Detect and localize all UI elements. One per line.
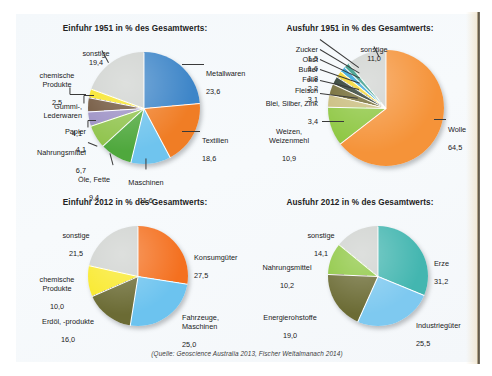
slice-separator xyxy=(328,274,378,277)
book-spine-edge xyxy=(477,12,480,364)
chart-title-einfuhr-1951: Einfuhr 1951 in % des Gesamtwerts: xyxy=(24,24,246,33)
slice-value: 3,4 xyxy=(308,117,318,126)
slice-value: 19,4 xyxy=(89,58,103,67)
slice-label-sonstige: sonstige 19,4 xyxy=(60,40,132,67)
slice-separator xyxy=(138,276,188,285)
slice-label-erdoel: Erdöl, -produkte 16,0 xyxy=(26,308,110,344)
leader-line xyxy=(88,142,98,147)
slice-name: Nahrungsmittel xyxy=(262,263,311,272)
slice-value: 10,0 xyxy=(50,302,64,311)
chart-title-ausfuhr-1951: Ausfuhr 1951 in % des Gesamtwerts: xyxy=(244,24,476,33)
slice-value: 1,8 xyxy=(308,74,318,83)
slice-value: 27,5 xyxy=(194,271,208,280)
slice-label-sonstige: sonstige 14,1 xyxy=(292,222,350,258)
slice-value: 4,1 xyxy=(72,129,82,138)
slice-value: 10,9 xyxy=(282,154,296,163)
chart-title-ausfuhr-2012: Ausfuhr 2012 in % des Gesamtwerts: xyxy=(244,198,476,207)
slice-value: 2,2 xyxy=(308,84,318,93)
slice-value: 6,7 xyxy=(76,166,86,175)
leader-line xyxy=(182,131,200,132)
slice-name: Zucker xyxy=(296,45,318,54)
slice-separator xyxy=(144,103,200,109)
leader-line xyxy=(88,120,89,127)
slice-value: 4,1 xyxy=(76,145,86,154)
slice-name: Energierohstoffe xyxy=(263,313,316,322)
slice-name: Fahrzeuge, Maschinen xyxy=(182,313,219,331)
slice-label-sonstige: sonstige 21,5 xyxy=(48,222,104,258)
slice-label-chemische-produkte: chemische Produkte 10,0 xyxy=(28,266,86,311)
slice-label-chemische-produkte: chemische Produkte 2,5 xyxy=(28,62,86,107)
slice-separator xyxy=(340,108,386,144)
slice-label-industriegueter: Industriegüter 25,5 xyxy=(416,312,461,348)
chart-einfuhr-2012: Einfuhr 2012 in % des Gesamtwerts: Konsu… xyxy=(24,198,246,348)
slice-value: 25,5 xyxy=(416,339,430,348)
source-caption: (Quelle: Geoscience Australia 2013, Fisc… xyxy=(16,350,478,357)
slice-value: 19,0 xyxy=(283,331,297,340)
slice-separator xyxy=(130,276,139,326)
slice-name: chemische Produkte xyxy=(40,275,75,293)
slice-name: Weizen, Weizenmehl xyxy=(269,127,309,145)
slice-name: sonstige xyxy=(307,231,334,240)
slice-name: Metallwaren xyxy=(206,69,245,78)
slice-value: 2,5 xyxy=(52,98,62,107)
slice-name: Maschinen xyxy=(128,178,163,187)
slice-name: Textilien xyxy=(202,136,228,145)
slice-label-erze: Erze 31,2 xyxy=(434,250,449,286)
slice-name: Erdöl, -produkte xyxy=(42,317,94,326)
leader-line xyxy=(70,94,86,95)
slice-separator xyxy=(377,227,378,277)
slice-value: 64,5 xyxy=(448,143,462,152)
slice-value: 1,6 xyxy=(308,64,318,73)
page-surface: Einfuhr 1951 in % des Gesamtwerts: Metal… xyxy=(16,14,478,362)
slice-value: 10,2 xyxy=(280,281,294,290)
slice-value: 1,5 xyxy=(308,54,318,63)
slice-value: 14,1 xyxy=(314,249,328,258)
slice-name: Wolle xyxy=(448,125,466,134)
slice-label-textilien: Textilien 18,6 xyxy=(202,127,228,163)
slice-separator xyxy=(143,53,144,109)
slice-label-konsumgueter: Konsumgüter 27,5 xyxy=(194,244,237,280)
scanned-page: Einfuhr 1951 in % des Gesamtwerts: Metal… xyxy=(0,0,492,376)
slice-value: 16,0 xyxy=(61,335,75,344)
pie-slices-ausfuhr-1951 xyxy=(328,50,444,166)
slice-name: Industriegüter xyxy=(416,321,461,330)
chart-einfuhr-1951: Einfuhr 1951 in % des Gesamtwerts: Metal… xyxy=(24,24,246,194)
leader-line xyxy=(322,121,344,122)
leader-line xyxy=(88,120,96,121)
slice-label-metallwaren: Metallwaren 23,6 xyxy=(206,60,245,96)
slice-label-wolle: Wolle 64,5 xyxy=(448,116,466,152)
pie-slices-einfuhr-1951 xyxy=(88,52,200,164)
slice-name: Erze xyxy=(434,259,449,268)
leader-line xyxy=(434,119,446,120)
chart-ausfuhr-1951: Ausfuhr 1951 in % des Gesamtwerts: Wolle… xyxy=(244,24,476,194)
slice-separator xyxy=(378,276,425,296)
slice-value: 21,5 xyxy=(69,249,83,258)
slice-name: Konsumgüter xyxy=(194,253,237,262)
slice-name: chemische Produkte xyxy=(40,71,75,89)
slice-value: 18,6 xyxy=(202,154,216,163)
slice-separator xyxy=(144,108,171,158)
slice-label-nahrungsmittel: Nahrungsmittel 10,2 xyxy=(250,254,324,290)
leader-line xyxy=(146,158,147,169)
slice-value: 23,6 xyxy=(206,87,220,96)
slice-label-energierohstoffe: Energierohstoffe 19,0 xyxy=(248,304,332,340)
slice-separator xyxy=(137,227,138,277)
slice-separator xyxy=(89,265,138,277)
slice-separator xyxy=(357,276,378,322)
chart-ausfuhr-2012: Ausfuhr 2012 in % des Gesamtwerts: Erze … xyxy=(244,198,476,348)
chart-title-einfuhr-2012: Einfuhr 2012 in % des Gesamtwerts: xyxy=(24,198,246,207)
slice-value: 31,2 xyxy=(434,277,448,286)
slice-label-fahrzeuge-maschinen: Fahrzeuge, Maschinen 25,0 xyxy=(182,304,219,349)
slice-label-zucker: Zucker 1,5 xyxy=(262,36,318,63)
slice-value: 25,0 xyxy=(182,340,196,349)
slice-name: sonstige xyxy=(62,231,89,240)
leader-line xyxy=(182,64,204,65)
slice-separator xyxy=(92,276,138,297)
slice-name: Öle, Fette xyxy=(78,175,110,184)
slice-value: 3,1 xyxy=(308,95,318,104)
